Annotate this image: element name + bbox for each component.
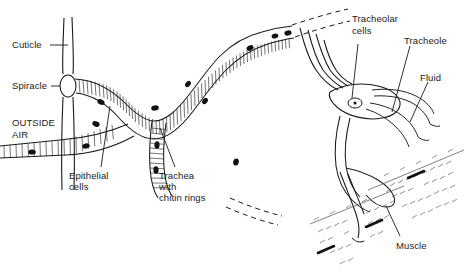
leader-trachea [160, 128, 175, 167]
leader-tracheolar [352, 44, 358, 98]
tracheole-branches [366, 89, 440, 147]
leader-tracheole [392, 46, 410, 112]
trachea-right-descending [300, 28, 352, 90]
tracheolar-cell-nucleus [348, 98, 362, 108]
spiracle-opening [60, 75, 76, 97]
label-epithelial-cells-line2: cells [69, 181, 89, 193]
leader-muscle [386, 206, 400, 236]
trachea-dashed-continuation-bottom [226, 198, 282, 225]
label-outside-air-line2: AIR [12, 129, 28, 141]
label-cuticle: Cuticle [12, 39, 42, 51]
label-muscle: Muscle [396, 240, 427, 252]
tracheole-to-muscle [335, 116, 394, 242]
label-tracheolar-cells-line1: Tracheolar [352, 13, 398, 25]
label-trachea-line1: Trachea [159, 170, 194, 182]
tracheal-system-diagram: Cuticle Spiracle OUTSIDE AIR Epithelial … [0, 0, 464, 273]
epithelial-cell-nuclei [28, 30, 292, 174]
cuticle-wall [62, 17, 75, 190]
leader-epithelial [101, 106, 110, 167]
label-outside-air-line1: OUTSIDE [12, 117, 55, 129]
label-tracheolar-cells-line2: cells [352, 25, 372, 37]
leader-lines [50, 44, 428, 236]
label-fluid: Fluid [420, 72, 441, 84]
diagram-canvas [0, 0, 464, 273]
label-epithelial-cells-line1: Epithelial [69, 170, 109, 182]
label-tracheole: Tracheole [404, 35, 447, 47]
chitin-rings [79, 39, 290, 135]
muscle-tissue-lower [310, 186, 404, 264]
label-trachea-line2: with [159, 181, 176, 193]
label-trachea-line3: chitin rings [159, 192, 206, 204]
label-spiracle: Spiracle [12, 80, 47, 92]
